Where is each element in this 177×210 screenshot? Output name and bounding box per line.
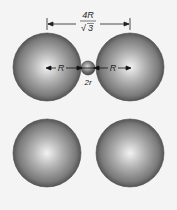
dimension-label-denominator: 3 [88, 23, 93, 33]
sphere-bottom-left [13, 119, 81, 187]
sphere-top-left [13, 33, 81, 101]
small-sphere-label: 2r [83, 78, 91, 87]
sphere-top-right [96, 33, 164, 101]
sphere-packing-diagram: 4R √ 3 R R 2r [0, 0, 177, 210]
dimension-label-sqrt: √ [81, 23, 86, 33]
left-radius-label: R [58, 63, 65, 73]
right-radius-label: R [110, 63, 117, 73]
sphere-bottom-right [96, 119, 164, 187]
dimension-label-numerator: 4R [82, 10, 94, 20]
